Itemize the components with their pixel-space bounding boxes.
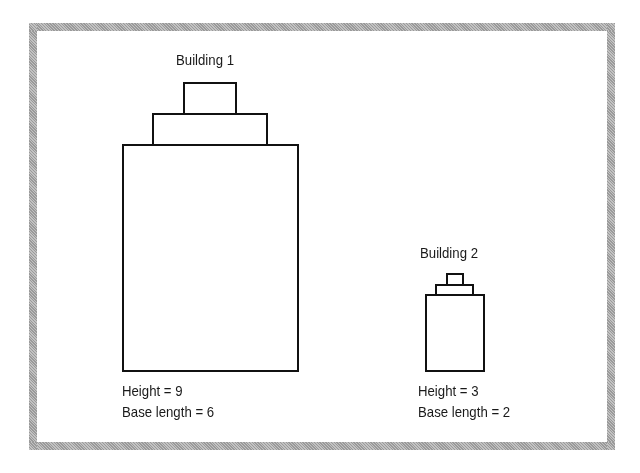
building-1-base-label: Base length = 6 (122, 403, 214, 421)
building-2-base (425, 294, 485, 372)
building-1-top-tier (183, 82, 237, 115)
building-2-title: Building 2 (420, 244, 478, 262)
building-1-middle-tier (152, 113, 268, 146)
building-2-height-label: Height = 3 (418, 382, 479, 400)
building-1-title: Building 1 (176, 51, 234, 69)
diagram-frame (29, 23, 615, 450)
building-1-height-label: Height = 9 (122, 382, 183, 400)
building-1-base (122, 144, 299, 372)
building-2-base-label: Base length = 2 (418, 403, 510, 421)
